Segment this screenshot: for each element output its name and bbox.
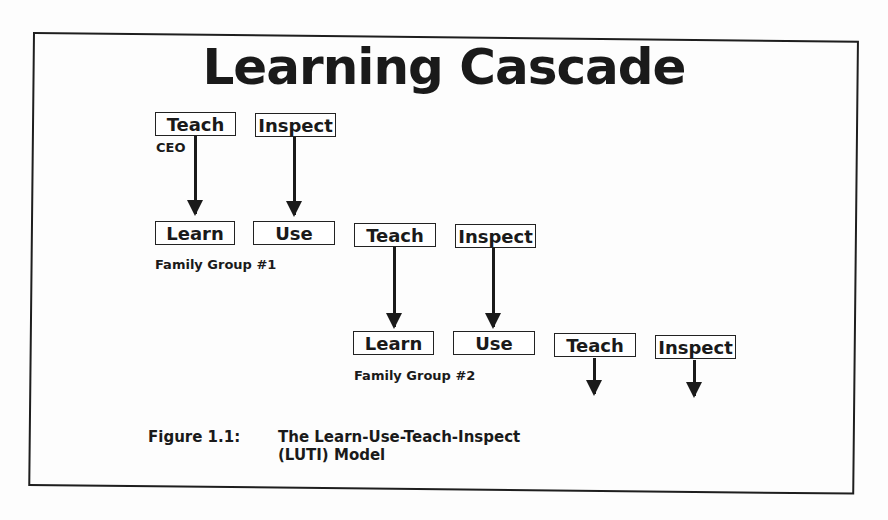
- fg1-use-box: Use: [253, 221, 335, 245]
- ceo-label: CEO: [156, 140, 185, 155]
- family-group-2-label: Family Group #2: [354, 368, 475, 383]
- ceo-inspect-box: Inspect: [255, 113, 336, 137]
- arrow-down-icon: [492, 248, 495, 327]
- arrow-down-icon: [293, 137, 296, 215]
- diagram-title: Learning Cascade: [0, 38, 888, 96]
- arrow-down-icon: [393, 247, 396, 327]
- caption-line-1: The Learn-Use-Teach-Inspect: [278, 428, 520, 446]
- arrow-down-icon: [593, 358, 596, 394]
- figure-frame: [28, 32, 859, 495]
- arrow-down-icon: [693, 360, 696, 396]
- arrow-down-icon: [194, 136, 197, 214]
- fg1-inspect-box: Inspect: [455, 224, 536, 248]
- ceo-teach-box: Teach: [155, 112, 236, 136]
- figure-caption: Figure 1.1:The Learn-Use-Teach-Inspect (…: [148, 428, 520, 464]
- fg2-learn-box: Learn: [353, 331, 434, 355]
- family-group-1-label: Family Group #1: [155, 257, 276, 272]
- fg2-teach-box: Teach: [554, 333, 636, 357]
- caption-line-2: (LUTI) Model: [148, 446, 520, 464]
- fg2-use-box: Use: [453, 331, 535, 355]
- fg1-teach-box: Teach: [354, 223, 436, 247]
- fg2-inspect-box: Inspect: [655, 335, 736, 359]
- figure-number: Figure 1.1:: [148, 428, 278, 446]
- fg1-learn-box: Learn: [155, 221, 235, 245]
